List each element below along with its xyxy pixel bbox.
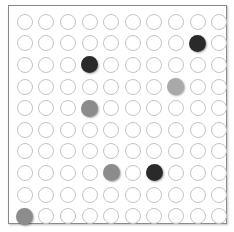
board-cell[interactable] (208, 97, 230, 119)
board-cell[interactable] (122, 141, 144, 163)
board-cell[interactable] (36, 141, 58, 163)
board-cell[interactable] (165, 54, 187, 76)
board-cell[interactable] (79, 184, 101, 206)
board-cell[interactable] (100, 141, 122, 163)
board-cell[interactable] (122, 76, 144, 98)
board-cell[interactable] (100, 119, 122, 141)
board-cell[interactable] (144, 11, 166, 33)
board-cell[interactable] (79, 162, 101, 184)
board-cell[interactable] (36, 97, 58, 119)
board-cell[interactable] (79, 33, 101, 55)
board-cell[interactable] (57, 119, 79, 141)
board-cell[interactable] (208, 76, 230, 98)
board-cell[interactable] (165, 141, 187, 163)
board-cell[interactable] (165, 11, 187, 33)
board-cell[interactable] (100, 33, 122, 55)
board-cell[interactable] (57, 11, 79, 33)
board-cell[interactable] (208, 11, 230, 33)
board-cell[interactable] (208, 162, 230, 184)
board-cell[interactable] (57, 33, 79, 55)
board-cell[interactable] (14, 11, 36, 33)
board-cell[interactable] (122, 184, 144, 206)
board-cell[interactable] (165, 119, 187, 141)
board-cell[interactable] (122, 54, 144, 76)
board-cell[interactable] (57, 97, 79, 119)
board-cell[interactable] (79, 54, 101, 76)
board-cell[interactable] (100, 11, 122, 33)
board-cell[interactable] (208, 184, 230, 206)
board-cell[interactable] (79, 141, 101, 163)
board-cell[interactable] (165, 97, 187, 119)
board-cell[interactable] (144, 184, 166, 206)
board-cell[interactable] (144, 97, 166, 119)
board-cell[interactable] (14, 33, 36, 55)
board-cell[interactable] (57, 76, 79, 98)
board-cell[interactable] (14, 205, 36, 227)
board-cell[interactable] (14, 162, 36, 184)
board-cell[interactable] (36, 33, 58, 55)
board-cell[interactable] (187, 33, 209, 55)
board-cell[interactable] (36, 11, 58, 33)
board-cell[interactable] (57, 141, 79, 163)
board-cell[interactable] (57, 205, 79, 227)
board-cell[interactable] (36, 54, 58, 76)
board-cell[interactable] (187, 162, 209, 184)
board-cell[interactable] (57, 162, 79, 184)
board-cell[interactable] (144, 205, 166, 227)
board-cell[interactable] (187, 11, 209, 33)
board-cell[interactable] (36, 184, 58, 206)
board-cell[interactable] (208, 205, 230, 227)
board-cell[interactable] (122, 11, 144, 33)
board-cell[interactable] (36, 162, 58, 184)
board-cell[interactable] (100, 97, 122, 119)
board-cell[interactable] (122, 205, 144, 227)
board-cell[interactable] (36, 119, 58, 141)
board-cell[interactable] (208, 54, 230, 76)
board-cell[interactable] (144, 33, 166, 55)
board-cell[interactable] (14, 141, 36, 163)
board-cell[interactable] (187, 119, 209, 141)
board-cell[interactable] (122, 33, 144, 55)
board-cell[interactable] (144, 54, 166, 76)
board-cell[interactable] (100, 205, 122, 227)
board-cell[interactable] (100, 76, 122, 98)
board-cell[interactable] (208, 33, 230, 55)
board-cell[interactable] (144, 141, 166, 163)
board-cell[interactable] (165, 184, 187, 206)
board-cell[interactable] (208, 141, 230, 163)
board-cell[interactable] (208, 119, 230, 141)
board-cell[interactable] (100, 54, 122, 76)
board-cell[interactable] (165, 205, 187, 227)
board-cell[interactable] (165, 162, 187, 184)
board-cell[interactable] (187, 54, 209, 76)
board-cell[interactable] (187, 184, 209, 206)
board-cell[interactable] (165, 33, 187, 55)
board-cell[interactable] (100, 184, 122, 206)
board-cell[interactable] (122, 119, 144, 141)
board-cell[interactable] (79, 119, 101, 141)
board-cell[interactable] (57, 184, 79, 206)
board-cell[interactable] (144, 76, 166, 98)
board-cell[interactable] (14, 76, 36, 98)
board-cell[interactable] (79, 205, 101, 227)
board-cell[interactable] (187, 97, 209, 119)
board-cell[interactable] (14, 184, 36, 206)
board-cell[interactable] (187, 76, 209, 98)
board-cell[interactable] (122, 162, 144, 184)
board-cell[interactable] (187, 141, 209, 163)
board-cell[interactable] (36, 76, 58, 98)
board-cell[interactable] (79, 97, 101, 119)
board-cell[interactable] (79, 11, 101, 33)
board-cell[interactable] (100, 162, 122, 184)
board-cell[interactable] (57, 54, 79, 76)
board-cell[interactable] (14, 54, 36, 76)
board-cell[interactable] (122, 97, 144, 119)
board-cell[interactable] (14, 119, 36, 141)
board-cell[interactable] (144, 162, 166, 184)
board-cell[interactable] (14, 97, 36, 119)
board-cell[interactable] (165, 76, 187, 98)
board-cell[interactable] (144, 119, 166, 141)
board-cell[interactable] (79, 76, 101, 98)
board-cell[interactable] (36, 205, 58, 227)
board-cell[interactable] (187, 205, 209, 227)
